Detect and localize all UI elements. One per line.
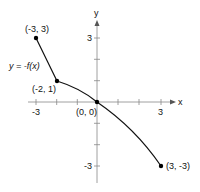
point-3-neg3 [159,164,163,168]
point-neg2-1 [55,79,59,83]
y-tick-label-3: 3 [87,33,92,43]
point-label-neg3-3: (-3, 3) [25,24,49,34]
x-tick-label-neg3: -3 [32,107,40,117]
point-label-3-neg3: (3, -3) [166,161,190,171]
point-neg3-3 [34,36,38,40]
point-origin [95,100,99,104]
x-axis-label: x [178,97,183,107]
y-tick-label-neg3: -3 [84,161,92,171]
y-axis-arrow-icon [95,20,100,26]
graph: y x 3 -3 -3 3 (-3, 3) (-2, 1) (0, 0) (3,… [0,0,200,192]
function-label: y = -f(x) [8,61,40,71]
point-label-origin: (0, 0) [76,107,97,117]
point-label-neg2-1: (-2, 1) [32,84,56,94]
x-tick-label-3: 3 [158,107,163,117]
x-axis-arrow-icon [170,100,176,105]
y-axis-label: y [94,8,99,18]
